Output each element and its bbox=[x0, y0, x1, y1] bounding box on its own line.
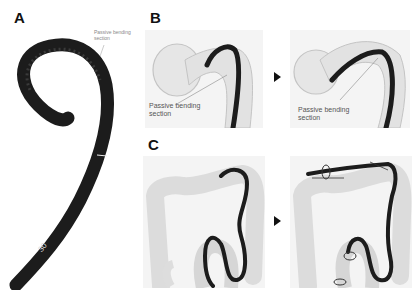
panel-b-before-callout-line1: Passive bending bbox=[149, 102, 200, 110]
panel-b-transition-arrow bbox=[274, 72, 281, 82]
panel-b-after-callout: Passive bending section bbox=[298, 106, 349, 122]
panel-b-before-callout-line2: section bbox=[149, 110, 200, 118]
panel-b-before-image: Passive bending section bbox=[145, 30, 263, 128]
panel-c-after-image bbox=[290, 156, 412, 288]
panel-c-transition-arrow bbox=[274, 216, 281, 226]
panel-a-scope-illustration bbox=[0, 0, 140, 290]
panel-b-after-callout-line1: Passive bending bbox=[298, 106, 349, 114]
panel-c-letter: C bbox=[148, 136, 159, 153]
panel-c-before-image bbox=[143, 156, 265, 288]
panel-b-after-image: Passive bending section bbox=[290, 30, 410, 128]
panel-b-after-callout-line2: section bbox=[298, 114, 349, 122]
panel-b-before-callout: Passive bending section bbox=[149, 102, 200, 118]
panel-b-letter: B bbox=[150, 9, 161, 26]
